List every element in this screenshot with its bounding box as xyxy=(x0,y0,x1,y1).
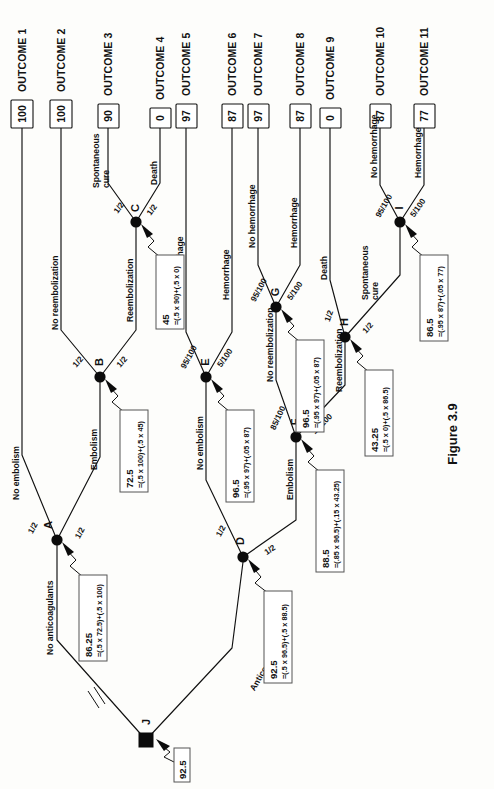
calculation-callouts: 86.25 =(.5 x 72.5)+(.5 x 100) 72.5 =(.5 … xyxy=(62,224,448,782)
outcome-value: 0 xyxy=(154,115,166,121)
branch-label-spontaneous-cure-h-line2: cure xyxy=(370,282,380,300)
branch-label-embolism-d: Embolism xyxy=(285,459,295,500)
callout-I: 86.5 =(.95 x 87)+(.05 x 77) xyxy=(405,224,448,341)
prob-e-hemorrhage: 5/100 xyxy=(215,347,234,369)
outcome-node-10: 87 OUTCOME 10 xyxy=(370,27,391,128)
edge-h-outcome9 xyxy=(330,128,345,337)
outcome-node-5: 97 OUTCOME 5 xyxy=(176,33,197,128)
outcome-label: OUTCOME 9 xyxy=(324,37,336,100)
outcome-node-3: 90 OUTCOME 3 xyxy=(98,33,119,128)
node-letter-I: I xyxy=(393,206,405,209)
callout-arrow-B xyxy=(105,379,117,393)
branch-label-no-hemorrhage-i: No hemorrhage xyxy=(369,114,379,178)
outcome-label: OUTCOME 7 xyxy=(252,33,264,96)
branch-label-embolism-a: Embolism xyxy=(89,429,99,470)
callout-value-B: 72.5 xyxy=(124,469,135,488)
outcome-label: OUTCOME 6 xyxy=(226,33,238,96)
prob-d-no-embolism: 1/2 xyxy=(214,523,227,538)
node-letter-D: D xyxy=(234,537,246,545)
callout-value-D: 92.5 xyxy=(268,660,279,679)
prob-c-spontaneous-cure: 1/2 xyxy=(112,200,126,215)
callout-value-C: 45 xyxy=(160,314,171,325)
outcome-value: 90 xyxy=(102,110,114,122)
decision-node-J xyxy=(139,733,153,747)
outcome-value: 87 xyxy=(294,110,306,122)
callout-arrow-I xyxy=(405,224,417,238)
edge-break-mark-1 xyxy=(88,691,99,708)
callout-value-E: 96.5 xyxy=(230,479,241,498)
node-letter-A: A xyxy=(42,521,54,529)
branch-label-no-reembolization-b: No reembolization xyxy=(50,256,60,331)
prob-d-embolism: 1/2 xyxy=(263,543,278,557)
branch-label-no-reembolization-f: No reembolization xyxy=(265,308,275,383)
outcome-value: 87 xyxy=(226,110,238,122)
chance-node-B xyxy=(94,371,105,382)
node-letter-H: H xyxy=(338,318,350,326)
outcome-label: OUTCOME 10 xyxy=(374,27,386,96)
outcome-column: 100 OUTCOME 1 100 OUTCOME 2 90 OUTCOME 3… xyxy=(11,27,435,128)
callout-expression-E: =(.95 x 97)+(.05 x 87) xyxy=(242,426,251,498)
callout-expression-I: =(.95 x 87)+(.05 x 77) xyxy=(436,265,445,337)
prob-f-no-reembolization: 85/100 xyxy=(269,404,288,431)
callout-value-G: 96.5 xyxy=(300,409,311,428)
outcome-label: OUTCOME 1 xyxy=(16,29,28,92)
outcome-node-9: 0 OUTCOME 9 xyxy=(320,37,341,128)
callout-expression-A: =(.5 x 72.5)+(.5 x 100) xyxy=(95,583,104,657)
callout-B: 72.5 =(.5 x 100)+(.5 x 45) xyxy=(105,379,148,492)
chance-node-E xyxy=(200,371,211,382)
callout-value-I: 86.5 xyxy=(424,318,435,337)
callout-arrow-F xyxy=(301,439,313,453)
outcome-node-8: 87 OUTCOME 8 xyxy=(290,33,311,128)
prob-a-no-embolism: 1/2 xyxy=(26,520,39,535)
callout-arrow-D xyxy=(248,559,260,573)
outcome-label: OUTCOME 11 xyxy=(418,27,430,96)
branch-label-no-anticoagulants: No anticoagulants xyxy=(45,580,55,655)
callout-expression-H: =(.5 x 0)+(.5 x 86.5) xyxy=(381,387,390,452)
chance-node-F xyxy=(290,431,301,442)
callout-A: 86.25 =(.5 x 72.5)+(.5 x 100) xyxy=(62,542,107,661)
figure-caption: Figure 3.9 xyxy=(445,403,460,464)
chance-node-A xyxy=(51,534,62,545)
callout-expression-B: =(.5 x 100)+(.5 x 45) xyxy=(136,421,145,488)
outcome-node-6: 87 OUTCOME 6 xyxy=(222,33,243,128)
callout-D: 92.5 =(.5 x 96.5)+(.5 x 88.5) xyxy=(248,559,292,683)
branch-label-hemorrhage-i: Hemorrhage xyxy=(413,127,423,178)
branch-label-spontaneous-cure-c-line1: Spontaneous xyxy=(91,133,101,188)
branch-label-no-embolism-d: No embolism xyxy=(195,416,205,470)
callout-arrow-A xyxy=(62,542,74,556)
outcome-label: OUTCOME 8 xyxy=(294,33,306,96)
prob-a-embolism: 1/2 xyxy=(73,525,86,540)
callout-expression-F: =(.85 x 96.5)+(.15 x 43.25) xyxy=(332,480,341,568)
callout-expression-G: =(.95 x 97)+(.05 x 87) xyxy=(312,356,321,428)
chance-node-H xyxy=(339,331,350,342)
chance-node-C xyxy=(130,216,141,227)
edge-j-d xyxy=(146,562,243,740)
callout-value-A: 86.25 xyxy=(83,632,94,657)
chance-node-I xyxy=(394,216,405,227)
prob-g-no-hemorrhage: 95/100 xyxy=(249,276,269,303)
prob-g-hemorrhage: 5/100 xyxy=(285,280,304,302)
outcome-label: OUTCOME 4 xyxy=(154,37,166,100)
callout-arrow-E xyxy=(211,379,223,393)
decision-tree-figure: 100 OUTCOME 1 100 OUTCOME 2 90 OUTCOME 3… xyxy=(0,0,494,789)
prob-e-no-hemorrhage: 95/100 xyxy=(179,343,199,370)
callout-arrow-J xyxy=(156,739,170,751)
branch-label-spontaneous-cure-c-line2: cure xyxy=(101,170,111,188)
node-letter-C: C xyxy=(129,204,141,212)
outcome-node-4: 0 OUTCOME 4 xyxy=(150,37,171,128)
outcome-node-1: 100 OUTCOME 1 xyxy=(11,29,33,128)
outcome-label: OUTCOME 3 xyxy=(102,33,114,96)
node-letter-J: J xyxy=(140,719,152,725)
outcome-label: OUTCOME 2 xyxy=(55,29,67,92)
node-letter-E: E xyxy=(199,358,211,365)
outcome-value: 97 xyxy=(180,110,192,122)
chance-node-G xyxy=(270,301,281,312)
outcome-label: OUTCOME 5 xyxy=(180,33,192,96)
branch-label-death-c: Death xyxy=(149,161,159,185)
outcome-node-11: 77 OUTCOME 11 xyxy=(414,27,435,128)
callout-expression-D: =(.5 x 96.5)+(.5 x 88.5) xyxy=(280,603,289,679)
callout-value-F: 88.5 xyxy=(320,549,331,568)
outcome-node-7: 97 OUTCOME 7 xyxy=(248,33,269,128)
callout-J: 92.5 xyxy=(156,739,190,782)
prob-i-hemorrhage: 5/100 xyxy=(408,197,427,219)
